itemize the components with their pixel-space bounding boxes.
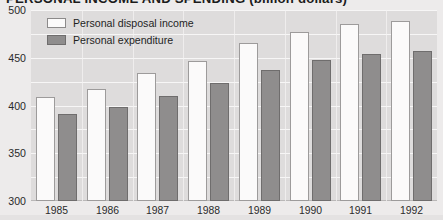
bar-income <box>290 32 309 202</box>
y-axis-tick-label: 300 <box>8 195 26 207</box>
bar-income <box>36 97 55 201</box>
bar-group: 1989 <box>239 10 280 201</box>
vertical-separator <box>386 10 387 201</box>
legend-label-expenditure: Personal expenditure <box>73 34 173 46</box>
bar-group: 1990 <box>290 10 331 201</box>
y-axis-tick-label: 450 <box>8 52 26 64</box>
bar-chart: PERSONAL INCOME AND SPENDING (billion do… <box>0 0 443 220</box>
footer-strip <box>0 215 443 220</box>
bar-expenditure <box>362 54 381 201</box>
bar-expenditure <box>413 51 432 201</box>
y-axis-tick-label: 350 <box>8 147 26 159</box>
bar-income <box>340 24 359 201</box>
legend-item-expenditure: Personal expenditure <box>47 33 194 47</box>
bar-expenditure <box>159 96 178 201</box>
bar-income <box>87 89 106 201</box>
bar-income <box>188 61 207 201</box>
bar-expenditure <box>58 114 77 201</box>
bar-group: 1991 <box>340 10 381 201</box>
chart-legend: Personal disposal income Personal expend… <box>47 16 194 50</box>
legend-item-income: Personal disposal income <box>47 16 194 30</box>
bar-expenditure <box>261 70 280 201</box>
vertical-separator <box>336 10 337 201</box>
bar-income <box>137 73 156 201</box>
legend-swatch-expenditure-icon <box>47 35 66 45</box>
legend-swatch-income-icon <box>47 18 66 28</box>
y-axis-tick-label: 400 <box>8 100 26 112</box>
bar-group: 1988 <box>188 10 229 201</box>
bar-income <box>239 43 258 201</box>
bar-income <box>391 21 410 201</box>
vertical-separator <box>234 10 235 201</box>
bar-expenditure <box>109 107 128 201</box>
y-axis-tick-label: 500 <box>8 4 26 16</box>
chart-title: PERSONAL INCOME AND SPENDING (billion do… <box>6 0 347 6</box>
legend-label-income: Personal disposal income <box>73 17 194 29</box>
bar-expenditure <box>312 60 331 201</box>
bar-expenditure <box>210 83 229 201</box>
bar-group: 1992 <box>391 10 432 201</box>
vertical-separator <box>285 10 286 201</box>
